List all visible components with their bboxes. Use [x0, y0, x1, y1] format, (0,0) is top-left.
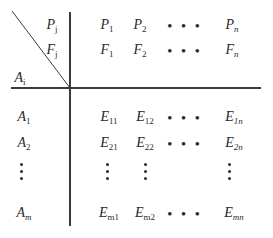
col2-vdots: [144, 163, 148, 184]
header-p-ellipsis: • • •: [167, 18, 202, 34]
header-pn: Pn: [225, 18, 238, 36]
cell-e22: E22: [136, 136, 154, 154]
col1-vdots: [106, 163, 110, 184]
row-label-a2: A2: [17, 136, 30, 154]
rowm-ellipsis: • • •: [167, 206, 202, 222]
corner-f-label: Fj: [46, 43, 57, 61]
cell-e21: E21: [100, 136, 118, 154]
cell-e11: E11: [100, 110, 117, 128]
row-label-vdots: [20, 163, 24, 184]
cell-e2n: E2n: [225, 136, 243, 154]
header-f1: F1: [100, 43, 113, 61]
cell-em1: Em1: [99, 206, 119, 224]
header-p1: P1: [100, 18, 113, 36]
row-label-am: Am: [16, 206, 31, 224]
header-p2: P2: [133, 18, 146, 36]
header-f2: F2: [133, 43, 146, 61]
coln-vdots: [228, 163, 232, 184]
corner-a-label: Ai: [14, 71, 25, 89]
horizontal-divider: [11, 87, 261, 89]
header-fn: Fn: [225, 43, 238, 61]
row1-ellipsis: • • •: [167, 110, 202, 126]
row-label-a1: A1: [17, 110, 30, 128]
header-f-ellipsis: • • •: [167, 43, 202, 59]
cell-e1n: E1n: [225, 110, 243, 128]
vertical-divider: [69, 12, 71, 226]
row2-ellipsis: • • •: [167, 136, 202, 152]
cell-emn: Emn: [224, 206, 244, 224]
cell-em2: Em2: [135, 206, 155, 224]
corner-p-label: Pj: [46, 18, 57, 36]
cell-e12: E12: [136, 110, 154, 128]
